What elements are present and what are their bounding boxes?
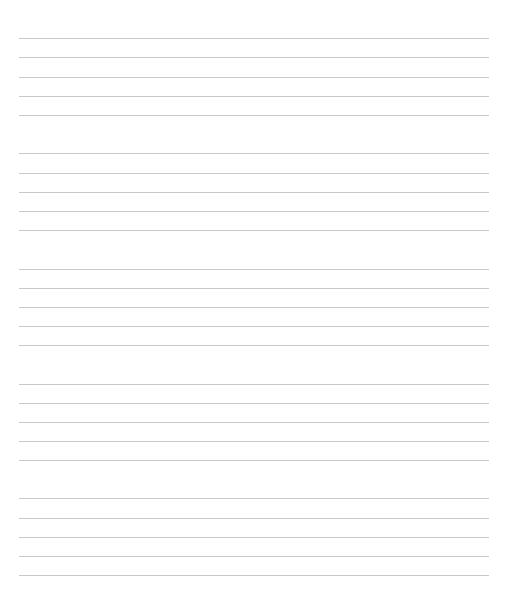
ruled-line: [19, 230, 489, 231]
ruled-line: [19, 77, 489, 78]
ruled-line: [19, 96, 489, 97]
ruled-line: [19, 556, 489, 557]
ruled-line: [19, 384, 489, 385]
ruled-line: [19, 192, 489, 193]
ruled-line: [19, 173, 489, 174]
ruled-line: [19, 307, 489, 308]
ruled-line: [19, 57, 489, 58]
lined-paper-page: [0, 0, 517, 608]
ruled-line: [19, 326, 489, 327]
ruled-line: [19, 537, 489, 538]
ruled-line: [19, 403, 489, 404]
ruled-line: [19, 38, 489, 39]
ruled-line: [19, 518, 489, 519]
ruled-line: [19, 345, 489, 346]
ruled-line: [19, 269, 489, 270]
ruled-line: [19, 288, 489, 289]
ruled-line: [19, 460, 489, 461]
ruled-line: [19, 211, 489, 212]
ruled-line: [19, 115, 489, 116]
ruled-line: [19, 422, 489, 423]
ruled-line: [19, 441, 489, 442]
ruled-line: [19, 575, 489, 576]
ruled-line: [19, 498, 489, 499]
ruled-line: [19, 153, 489, 154]
